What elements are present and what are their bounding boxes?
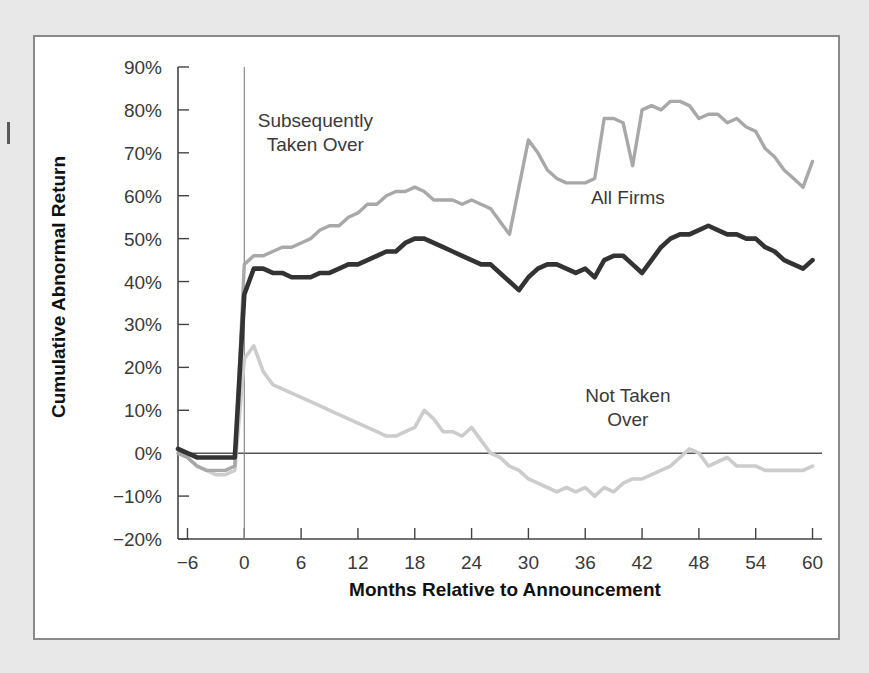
series-annotation: All Firms bbox=[591, 187, 665, 208]
y-tick-label: 30% bbox=[124, 314, 162, 335]
data-series-group bbox=[178, 101, 813, 496]
x-axis-title: Months Relative to Announcement bbox=[349, 579, 661, 600]
series-annotation-group: SubsequentlyTaken OverAll FirmsNot Taken… bbox=[258, 110, 671, 430]
series-line-not-taken-over bbox=[178, 346, 813, 496]
y-tick-label: 90% bbox=[124, 57, 162, 78]
y-axis-tick-marks bbox=[178, 67, 189, 539]
y-axis-title: Cumulative Abnormal Return bbox=[48, 156, 69, 418]
y-tick-label: −20% bbox=[113, 529, 162, 550]
y-tick-label: 70% bbox=[124, 143, 162, 164]
x-tick-label: 12 bbox=[347, 552, 368, 573]
x-tick-label: 60 bbox=[802, 552, 823, 573]
cumulative-abnormal-return-chart: −20%−10%0%10%20%30%40%50%60%70%80%90% −6… bbox=[35, 37, 838, 638]
x-tick-label: 42 bbox=[631, 552, 652, 573]
y-tick-label: −10% bbox=[113, 486, 162, 507]
page-edge-mark bbox=[7, 122, 10, 144]
series-annotation: SubsequentlyTaken Over bbox=[258, 110, 374, 155]
x-tick-label: 36 bbox=[575, 552, 596, 573]
x-tick-label: 24 bbox=[461, 552, 483, 573]
x-tick-label: 0 bbox=[239, 552, 250, 573]
series-line-all-firms bbox=[178, 226, 813, 458]
y-tick-label: 50% bbox=[124, 229, 162, 250]
y-tick-label: 10% bbox=[124, 400, 162, 421]
x-tick-label: −6 bbox=[177, 552, 199, 573]
figure-panel: −20%−10%0%10%20%30%40%50%60%70%80%90% −6… bbox=[33, 35, 840, 640]
x-tick-label: 30 bbox=[518, 552, 539, 573]
x-axis-tick-marks bbox=[187, 528, 812, 539]
x-tick-label: 54 bbox=[745, 552, 767, 573]
y-tick-label: 60% bbox=[124, 186, 162, 207]
y-tick-label: 20% bbox=[124, 357, 162, 378]
y-axis-tick-labels: −20%−10%0%10%20%30%40%50%60%70%80%90% bbox=[113, 57, 162, 550]
y-tick-label: 40% bbox=[124, 272, 162, 293]
y-tick-label: 80% bbox=[124, 100, 162, 121]
series-line-subsequently-taken-over bbox=[178, 101, 813, 470]
x-tick-label: 48 bbox=[688, 552, 709, 573]
x-tick-label: 6 bbox=[296, 552, 307, 573]
x-axis-tick-labels: −606121824303642485460 bbox=[177, 552, 823, 573]
y-tick-label: 0% bbox=[135, 443, 163, 464]
series-annotation: Not TakenOver bbox=[585, 385, 670, 430]
x-tick-label: 18 bbox=[404, 552, 425, 573]
